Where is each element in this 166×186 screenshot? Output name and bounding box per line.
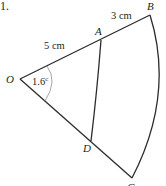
label-A: A (94, 25, 102, 37)
arc-BC (132, 15, 159, 178)
label-C: C (127, 181, 135, 186)
label-O: O (6, 73, 14, 85)
question-number: 1. (0, 0, 9, 13)
sector-diagram: 1. B A O D C 3 cm 5 cm 1.6c (0, 0, 166, 186)
label-B: B (147, 0, 154, 12)
angle-arc (45, 66, 52, 101)
radius-OC (20, 79, 132, 178)
angle-unit: c (45, 75, 48, 83)
arc-AD (91, 40, 101, 141)
length-OA: 5 cm (44, 40, 65, 51)
radius-OB (20, 15, 150, 79)
angle-value: 1.6 (32, 76, 45, 87)
angle-label: 1.6c (32, 75, 48, 87)
length-AB: 3 cm (111, 10, 132, 21)
label-D: D (82, 142, 91, 154)
